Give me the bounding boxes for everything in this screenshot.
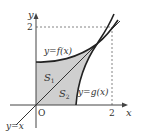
function-area-diagram: y 2 2 x O y=f(x) y=g(x) y=x S1 S2	[0, 0, 141, 134]
y-tick-2: 2	[27, 22, 33, 32]
f-curve-label: y=f(x)	[43, 46, 73, 56]
g-curve-label: y=g(x)	[77, 87, 109, 97]
x-tick-2: 2	[109, 108, 115, 118]
origin-label: O	[38, 108, 45, 118]
line-label: y=x	[5, 121, 24, 131]
y-axis-arrow-icon	[34, 13, 39, 19]
y-axis-label: y	[27, 9, 34, 20]
diagram-canvas: y 2 2 x O y=f(x) y=g(x) y=x S1 S2	[0, 0, 141, 134]
x-axis-label: x	[126, 107, 132, 118]
